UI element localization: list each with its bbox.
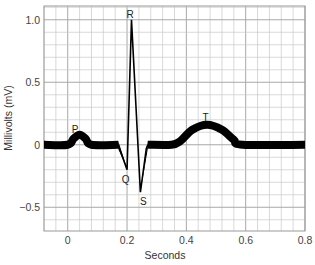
- x-tick-label: 0: [65, 234, 71, 246]
- x-tick-label: 0.6: [238, 234, 253, 246]
- wave-label-t: T: [203, 112, 209, 123]
- x-axis-label: Seconds: [145, 249, 186, 261]
- wave-label-r: R: [126, 9, 133, 20]
- y-axis-label: Millivolts (mV): [2, 85, 14, 150]
- ecg-chart: 00.20.40.60.8 1.00.50−0.5 PRQST Seconds …: [0, 0, 315, 265]
- x-tick-label: 0.8: [298, 234, 313, 246]
- wave-label-s: S: [140, 196, 147, 207]
- x-tick-label: 0.4: [179, 234, 194, 246]
- y-tick-label: −0.5: [19, 201, 40, 213]
- x-tick-label: 0.2: [120, 234, 135, 246]
- y-axis-ticks: 1.00.50−0.5: [19, 14, 40, 214]
- y-tick-label: 0: [34, 139, 40, 151]
- grid: [44, 6, 305, 231]
- x-axis-ticks: 00.20.40.60.8: [65, 234, 313, 246]
- wave-label-p: P: [72, 124, 79, 135]
- wave-label-q: Q: [122, 174, 130, 185]
- y-tick-label: 1.0: [25, 14, 40, 26]
- y-tick-label: 0.5: [25, 76, 40, 88]
